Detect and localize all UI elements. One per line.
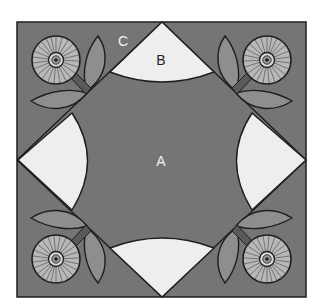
- quilt-block-diagram: A B C: [0, 0, 324, 305]
- label-a: A: [156, 153, 166, 169]
- label-b: B: [156, 52, 165, 68]
- label-c: C: [118, 33, 128, 49]
